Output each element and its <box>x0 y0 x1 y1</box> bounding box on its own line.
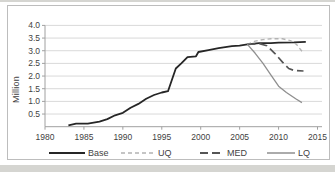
y-tick-label: 0.5 <box>28 109 40 119</box>
legend-label-base: Base <box>88 148 109 158</box>
legend-label-uq: UQ <box>158 148 172 158</box>
y-tick-label: 1.0 <box>28 96 40 106</box>
legend-med-line-icon <box>200 148 224 157</box>
y-tick-label: 3.0 <box>28 46 40 56</box>
legend-uq-line-icon <box>121 148 155 157</box>
x-tick-label: 1980 <box>36 132 55 142</box>
y-tick-label: 1.5 <box>28 84 40 94</box>
legend-base-line-icon <box>49 148 85 157</box>
plot-area: 4.03.53.02.52.01.51.00.51980198519901995… <box>8 6 329 159</box>
page-bottom-border <box>0 165 335 172</box>
x-tick-label: 2010 <box>269 132 288 142</box>
x-tick-label: 2015 <box>308 132 327 142</box>
chart-panel: 4.03.53.02.52.01.51.00.51980198519901995… <box>7 5 330 160</box>
page-top-border <box>0 0 335 2</box>
legend-item-base: Base <box>49 146 109 159</box>
legend-item-uq: UQ <box>121 146 172 159</box>
series-line-med <box>247 44 303 71</box>
x-tick-label: 2000 <box>191 132 210 142</box>
legend-item-med: MED <box>200 146 247 159</box>
y-axis-title: Million <box>11 51 22 103</box>
y-tick-label: 4.0 <box>28 20 40 30</box>
y-tick-label: 3.5 <box>28 33 40 43</box>
y-tick-label: 2.0 <box>28 71 40 81</box>
x-tick-label: 2005 <box>230 132 249 142</box>
y-tick-label: 2.5 <box>28 58 40 68</box>
legend-label-lq: LQ <box>298 148 310 158</box>
x-tick-label: 1985 <box>74 132 93 142</box>
series-line-base <box>68 42 305 126</box>
legend-item-lq: LQ <box>267 146 310 159</box>
x-tick-label: 1990 <box>113 132 132 142</box>
legend-label-med: MED <box>227 148 247 158</box>
x-tick-label: 1995 <box>152 132 171 142</box>
legend-lq-line-icon <box>267 148 295 157</box>
chart-legend: Base UQ MED LQ <box>8 146 329 159</box>
